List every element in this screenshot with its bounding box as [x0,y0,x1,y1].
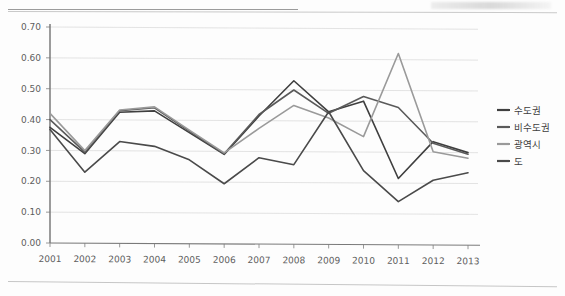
x-tick-label: 2003 [108,254,131,264]
legend-label-수도권: 수도권 [514,105,541,116]
gridline-0.60 [50,58,478,60]
x-tick-label: 2005 [178,255,201,265]
x-tick-label: 2002 [73,254,96,264]
gridline-0.10 [50,212,478,214]
y-tick-label: 0.50 [21,84,41,94]
x-tick-label: 2007 [248,255,271,265]
legend-label-도: 도 [514,156,523,167]
series-line-비수도권 [50,90,468,154]
series-line-수도권 [50,81,468,179]
y-tick-label: 0.40 [21,115,41,125]
series-line-광역시 [50,54,468,159]
legend-label-광역시: 광역시 [514,139,541,150]
y-tick-label: 0.20 [21,176,41,186]
y-axis-tick-labels: 0.000.100.200.300.400.500.600.70 [21,22,41,248]
series-line-도 [50,112,468,202]
y-tick-label: 0.70 [21,22,41,32]
y-tick-label: 0.00 [21,238,41,248]
x-tick-label: 2001 [39,254,62,264]
x-tick-label: 2008 [282,255,305,265]
gridline-0.50 [50,89,478,91]
legend-label-비수도권: 비수도권 [514,122,550,133]
legend: 수도권비수도권광역시도 [497,105,550,167]
x-tick-label: 2010 [352,256,375,266]
x-axis-tick-labels: 2001200220032004200520062007200820092010… [39,254,480,266]
x-axis-line [50,243,480,245]
x-tick-label: 2011 [387,256,410,266]
x-tick-label: 2009 [317,255,340,265]
x-tick-label: 2006 [213,255,236,265]
y-tick-label: 0.60 [21,53,41,63]
gridlines-group [50,27,478,214]
y-tick-label: 0.30 [21,146,41,156]
data-series-group [50,54,468,202]
gridline-0.20 [50,181,478,183]
y-tick-label: 0.10 [21,207,41,217]
x-tick-label: 2013 [457,256,480,266]
gridline-0.70 [50,27,478,29]
gridline-0.30 [50,150,478,152]
x-tick-label: 2004 [143,254,166,264]
chart-canvas: 0.000.100.200.300.400.500.600.70 2001200… [0,0,565,296]
x-tick-label: 2012 [422,256,445,266]
line-chart: 0.000.100.200.300.400.500.600.70 2001200… [0,0,565,296]
axes-group [50,24,480,245]
